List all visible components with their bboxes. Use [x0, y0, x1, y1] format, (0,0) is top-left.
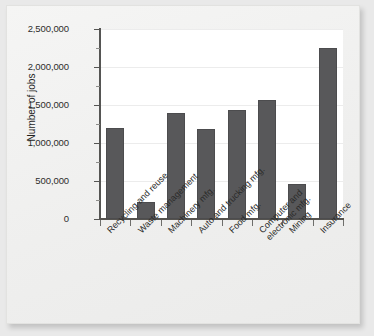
chart-card: Number of jobs 0500,0001,000,0001,500,00…: [6, 5, 360, 324]
bar[interactable]: [258, 100, 276, 219]
x-axis-tick: [343, 220, 344, 226]
y-axis-tick-label: 2,000,000: [0, 61, 69, 72]
page-background: Number of jobs 0500,0001,000,0001,500,00…: [0, 0, 374, 336]
x-axis-tick: [161, 220, 162, 226]
x-axis-tick: [252, 220, 253, 226]
bar[interactable]: [106, 128, 124, 219]
y-axis-tick-label: 500,000: [0, 175, 69, 186]
y-axis-tick-label: 0: [0, 213, 69, 224]
chart-card-surface: Number of jobs 0500,0001,000,0001,500,00…: [7, 6, 359, 323]
bar-series: [100, 29, 343, 219]
x-axis-tick: [313, 220, 314, 226]
y-axis-tick-label: 1,500,000: [0, 99, 69, 110]
y-axis-tick-label: 1,000,000: [0, 137, 69, 148]
x-axis-tick: [100, 220, 101, 226]
bar-chart: Number of jobs 0500,0001,000,0001,500,00…: [7, 6, 359, 323]
x-axis-tick: [222, 220, 223, 226]
x-axis-tick: [130, 220, 131, 226]
x-axis-tick: [191, 220, 192, 226]
bar[interactable]: [319, 48, 337, 219]
y-axis-tick-label: 2,500,000: [0, 23, 69, 34]
